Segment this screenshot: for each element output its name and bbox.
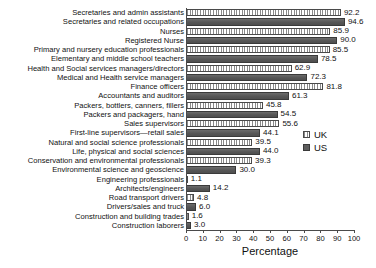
bar-uk xyxy=(186,139,252,146)
x-axis-tick xyxy=(337,230,338,233)
bar-us xyxy=(186,18,345,25)
bar-us xyxy=(186,55,318,62)
bar-uk xyxy=(186,102,263,109)
x-axis-tick-label: 10 xyxy=(199,234,207,243)
x-axis-tick xyxy=(354,230,355,233)
bar-uk xyxy=(186,65,292,72)
category-label: Construction laborers xyxy=(0,221,184,231)
bar-value-label: 78.5 xyxy=(321,54,337,64)
legend-swatch-uk-icon xyxy=(303,131,310,138)
legend-item-uk: UK xyxy=(303,128,327,141)
bar-value-label: 30.0 xyxy=(239,165,255,175)
x-axis-title: Percentage xyxy=(186,245,354,257)
y-axis-line xyxy=(186,8,187,230)
x-axis-tick-label: 0 xyxy=(184,234,188,243)
x-axis-tick xyxy=(304,230,305,233)
x-axis-tick xyxy=(320,230,321,233)
bar-us xyxy=(186,148,260,155)
bar-us xyxy=(186,166,236,173)
x-axis-tick-label: 70 xyxy=(299,234,307,243)
x-axis-tick-label: 30 xyxy=(232,234,240,243)
bar-us xyxy=(186,92,289,99)
x-axis-tick-label: 100 xyxy=(348,234,361,243)
bar-uk xyxy=(186,83,323,90)
x-axis-tick-label: 40 xyxy=(249,234,257,243)
bar-value-label: 14.2 xyxy=(213,183,229,193)
legend-swatch-us-icon xyxy=(303,144,310,151)
bar-uk xyxy=(186,194,194,201)
x-axis-line: 0102030405060708090100 xyxy=(186,230,354,231)
bar-value-label: 62.9 xyxy=(295,63,311,73)
chart-legend: UK US xyxy=(303,128,327,154)
bar-us xyxy=(186,129,260,136)
bar-uk xyxy=(186,46,330,53)
x-axis-tick-label: 60 xyxy=(283,234,291,243)
x-axis-tick xyxy=(270,230,271,233)
bar-value-label: 3.0 xyxy=(194,220,205,230)
bar-chart: Secretaries and admin assistantsSecretar… xyxy=(0,0,376,268)
x-axis-tick-label: 90 xyxy=(333,234,341,243)
bar-value-label: 45.8 xyxy=(266,100,282,110)
x-axis-tick-label: 50 xyxy=(266,234,274,243)
bar-value-label: 1.1 xyxy=(191,174,202,184)
bar-us xyxy=(186,111,278,118)
bar-value-label: 55.6 xyxy=(282,119,298,129)
x-axis-tick-label: 20 xyxy=(215,234,223,243)
bar-us xyxy=(186,74,307,81)
bar-value-label: 39.3 xyxy=(255,156,271,166)
bar-value-label: 61.3 xyxy=(292,91,308,101)
x-axis-tick-label: 80 xyxy=(316,234,324,243)
bar-value-label: 72.3 xyxy=(310,72,326,82)
bar-us xyxy=(186,203,196,210)
bar-uk xyxy=(186,9,341,16)
legend-label-uk: UK xyxy=(314,129,327,140)
bar-us xyxy=(186,37,337,44)
legend-label-us: US xyxy=(314,142,327,153)
x-axis-tick xyxy=(253,230,254,233)
x-axis-tick xyxy=(220,230,221,233)
bar-us xyxy=(186,185,210,192)
bar-uk xyxy=(186,28,330,35)
category-label-list: Secretaries and admin assistantsSecretar… xyxy=(0,8,184,230)
bar-value-label: 94.6 xyxy=(348,17,364,27)
legend-item-us: US xyxy=(303,141,327,154)
x-axis-tick xyxy=(203,230,204,233)
x-axis-tick xyxy=(236,230,237,233)
bar-uk xyxy=(186,120,279,127)
x-axis-tick xyxy=(186,230,187,233)
bar-uk xyxy=(186,157,252,164)
x-axis-tick xyxy=(287,230,288,233)
plot-area: 92.294.685.990.085.578.562.972.381.861.3… xyxy=(186,8,354,230)
bar-value-label: 81.8 xyxy=(326,82,342,92)
